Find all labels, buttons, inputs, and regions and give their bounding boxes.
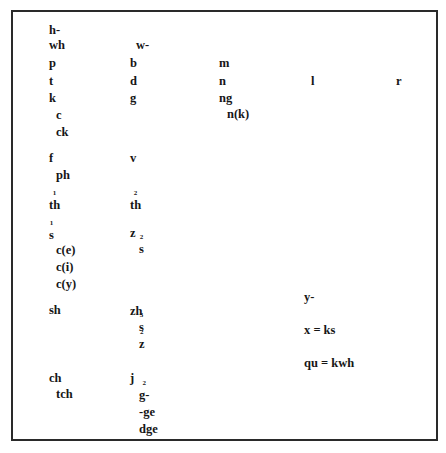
grapheme-p: p: [49, 56, 56, 70]
grapheme-z-2: 2z: [139, 337, 145, 351]
grapheme-text: s: [49, 228, 54, 242]
grapheme-m: m: [219, 56, 229, 70]
grapheme-b: b: [130, 56, 137, 70]
grapheme-x-equals-ks: x = ks: [304, 323, 335, 337]
diacritic-mark: 2: [139, 329, 145, 336]
grapheme-sh: sh: [49, 303, 61, 317]
grapheme-t: t: [49, 74, 53, 88]
grapheme-v: v: [130, 151, 136, 165]
diacritic-mark: 2: [139, 380, 149, 387]
grapheme-ng: ng: [219, 91, 232, 105]
grapheme-n: n: [219, 74, 226, 88]
grapheme-dge: dge: [139, 422, 158, 436]
grapheme-ge: -ge: [139, 405, 155, 419]
grapheme-qu-equals-kwh: qu = kwh: [304, 356, 354, 370]
grapheme-cy: c(y): [56, 277, 76, 291]
diacritic-mark: 2: [130, 190, 141, 197]
grapheme-d: d: [130, 74, 137, 88]
grapheme-k: k: [49, 91, 56, 105]
grapheme-ph: ph: [56, 168, 70, 182]
diacritic-mark: 1: [49, 220, 54, 227]
grapheme-th-2: 2th: [130, 198, 141, 212]
grapheme-l: l: [311, 74, 314, 88]
grapheme-w: w-: [136, 38, 149, 52]
grapheme-h: h-: [49, 23, 60, 37]
grapheme-s-1: 1s: [49, 228, 54, 242]
grapheme-g: g: [130, 91, 136, 105]
grapheme-j: j: [130, 371, 134, 385]
grapheme-r: r: [396, 74, 402, 88]
grapheme-th-1: 1th: [49, 198, 60, 212]
diacritic-mark: 2: [139, 234, 144, 241]
grapheme-f: f: [49, 151, 53, 165]
grapheme-c: c: [56, 108, 62, 122]
grapheme-s-2: 2s: [139, 242, 144, 256]
grapheme-text: g-: [139, 388, 149, 402]
grapheme-g-2: 2g-: [139, 388, 149, 402]
grapheme-text: th: [49, 198, 60, 212]
grapheme-wh: wh: [49, 38, 65, 52]
grapheme-text: z: [139, 337, 145, 351]
grapheme-y: y-: [304, 290, 314, 304]
grapheme-nk: n(k): [227, 107, 249, 121]
grapheme-text: th: [130, 198, 141, 212]
grapheme-ch: ch: [49, 371, 62, 385]
grapheme-ck: ck: [56, 125, 69, 139]
grapheme-ci: c(i): [56, 260, 73, 274]
grapheme-tch: tch: [56, 387, 73, 401]
diacritic-mark: 3: [139, 312, 144, 319]
diacritic-mark: 1: [49, 190, 60, 197]
grapheme-ce: c(e): [56, 243, 75, 257]
grapheme-text: s: [139, 242, 144, 256]
grapheme-z: z: [130, 226, 136, 240]
